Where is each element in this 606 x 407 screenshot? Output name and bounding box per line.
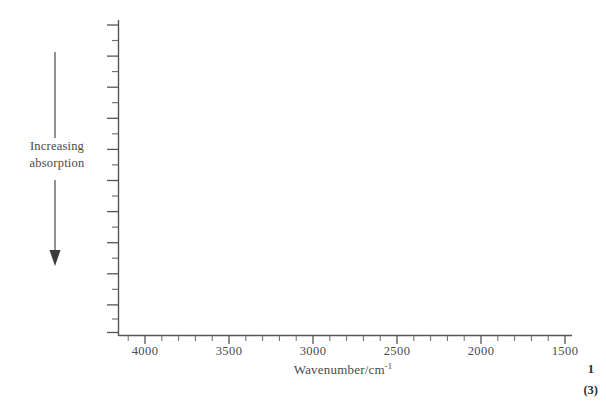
x-axis-minor-ticks (128, 336, 548, 342)
y-axis-major-ticks (107, 25, 119, 333)
x-tick-label-3500: 3500 (216, 344, 243, 359)
x-tick-label-4000: 4000 (132, 344, 159, 359)
increasing-absorption-label: Increasing absorption (8, 138, 106, 172)
x-tick-label-2000: 2000 (468, 344, 495, 359)
question-mark-total: 1 (588, 362, 594, 377)
spectrum-figure-page: 4000 3500 3000 2500 2000 1500 Wavenumber… (0, 0, 606, 407)
x-axis-title-superscript: -1 (385, 361, 392, 371)
absorption-label-line2: absorption (8, 155, 106, 172)
y-axis-minor-ticks (112, 41, 119, 320)
x-axis-title-base: Wavenumber/cm (294, 362, 385, 377)
x-tick-label-1500: 1500 (552, 344, 579, 359)
question-marks-available: (3) (583, 383, 598, 398)
x-tick-label-3000: 3000 (300, 344, 327, 359)
absorption-label-line1: Increasing (30, 139, 84, 153)
x-axis-title: Wavenumber/cm-1 (294, 362, 393, 378)
x-tick-label-2500: 2500 (384, 344, 411, 359)
increasing-absorption-annotation: Increasing absorption (8, 50, 106, 270)
x-axis-major-ticks (145, 336, 565, 345)
